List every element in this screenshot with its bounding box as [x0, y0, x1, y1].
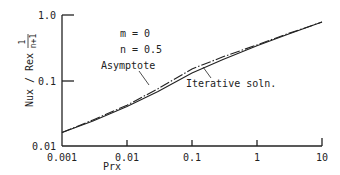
asymptote-leader-line — [139, 71, 149, 85]
chart: 1.0 0.1 0.01 0.001 0.01 0.1 1 10 Prx Nux… — [0, 0, 340, 175]
x-axis-label: Prx — [103, 161, 121, 172]
y-tick-labels: 1.0 0.1 0.01 — [32, 10, 56, 152]
x-tick-label: 10 — [316, 152, 328, 163]
param-n: n = 0.5 — [120, 44, 162, 55]
iterative-label: Iterative soln. — [186, 78, 276, 89]
asymptote-label: Asymptote — [101, 60, 155, 71]
y-tick-label: 0.1 — [38, 76, 56, 87]
y-tick-label: 0.01 — [32, 141, 56, 152]
param-annotations: m = 0 n = 0.5 — [120, 28, 162, 55]
iterative-leader-line — [203, 67, 211, 78]
x-tick-label: 0.001 — [47, 152, 77, 163]
y-axis-label-exp-num: 1 — [18, 39, 27, 44]
x-tick-labels: 0.001 0.01 0.1 1 10 — [47, 152, 328, 163]
y-axis-label-exp-den: n+1 — [29, 34, 38, 49]
y-axis-label: Nux / Rex 1 n+1 — [18, 34, 38, 108]
y-tick-label: 1.0 — [38, 10, 56, 21]
x-tick-label: 0.1 — [183, 152, 201, 163]
x-tick-label: 1 — [254, 152, 260, 163]
y-axis-label-main: Nux / Rex — [24, 53, 35, 107]
param-m: m = 0 — [120, 28, 150, 39]
